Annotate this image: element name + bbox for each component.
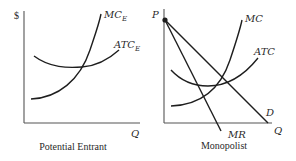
panel-monopolist: P Q MC ATC D MR Monopolist bbox=[151, 9, 282, 151]
price-intercept-dot bbox=[162, 17, 167, 22]
mr-label: MR bbox=[227, 129, 246, 140]
x-axis-label: Q bbox=[131, 128, 139, 139]
panel-potential-entrant: $ Q MCE ATCE Potential Entrant bbox=[14, 9, 140, 152]
x-axis-label: Q bbox=[274, 125, 282, 136]
diagram-canvas: $ Q MCE ATCE Potential Entrant P Q MC AT… bbox=[0, 0, 296, 161]
mc-label: MC bbox=[244, 13, 263, 24]
atc-label: ATC bbox=[253, 46, 275, 57]
caption-potential-entrant: Potential Entrant bbox=[39, 141, 107, 152]
mc-e-label: MCE bbox=[103, 9, 127, 23]
y-axis-label: $ bbox=[14, 10, 19, 21]
caption-monopolist: Monopolist bbox=[201, 140, 247, 151]
atc-curve bbox=[171, 58, 258, 86]
marginal-revenue-curve bbox=[165, 20, 221, 131]
demand-curve bbox=[165, 20, 268, 123]
mc-curve bbox=[171, 20, 242, 106]
y-axis-label: P bbox=[151, 9, 159, 20]
demand-label: D bbox=[265, 107, 274, 118]
mc-e-curve bbox=[31, 14, 101, 99]
atc-e-curve bbox=[34, 50, 119, 67]
